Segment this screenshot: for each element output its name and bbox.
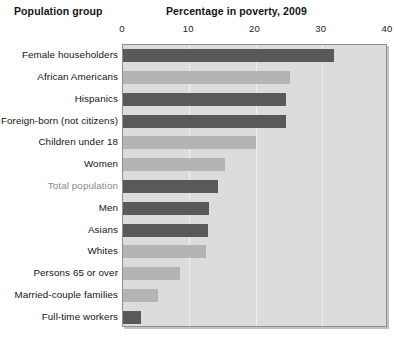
bar [123, 115, 286, 128]
bar [123, 224, 208, 237]
gridline-30 [322, 45, 323, 326]
gridline-20 [256, 45, 257, 326]
category-label: Foreign-born (not citizens) [0, 115, 118, 126]
category-label: Married-couple families [0, 289, 118, 300]
bar [123, 93, 286, 106]
category-labels-column: Female householdersAfrican AmericansHisp… [0, 44, 118, 327]
x-tick-10: 10 [183, 23, 194, 34]
poverty-bar-chart: Population group Percentage in poverty, … [0, 0, 394, 344]
category-label: Asians [0, 224, 118, 235]
x-tick-40: 40 [382, 23, 393, 34]
category-label: Children under 18 [0, 136, 118, 147]
category-label: Full-time workers [0, 311, 118, 322]
bar [123, 267, 180, 280]
category-label: Hispanics [0, 93, 118, 104]
column-header-population-group: Population group [14, 5, 103, 17]
bar [123, 245, 206, 258]
category-label: Persons 65 or over [0, 267, 118, 278]
plot-area [122, 44, 387, 327]
category-label: Men [0, 202, 118, 213]
chart-title: Percentage in poverty, 2009 [166, 5, 307, 17]
bar [123, 136, 256, 149]
bar [123, 158, 225, 171]
category-label: Total population [0, 180, 118, 191]
x-tick-30: 30 [315, 23, 326, 34]
category-label: African Americans [0, 71, 118, 82]
x-tick-0: 0 [119, 23, 124, 34]
bar [123, 311, 141, 324]
bar [123, 71, 290, 84]
bar [123, 49, 334, 62]
bar [123, 180, 218, 193]
bar [123, 202, 209, 215]
category-label: Women [0, 158, 118, 169]
bar [123, 289, 158, 302]
x-tick-20: 20 [249, 23, 260, 34]
category-label: Whites [0, 245, 118, 256]
category-label: Female householders [0, 49, 118, 60]
